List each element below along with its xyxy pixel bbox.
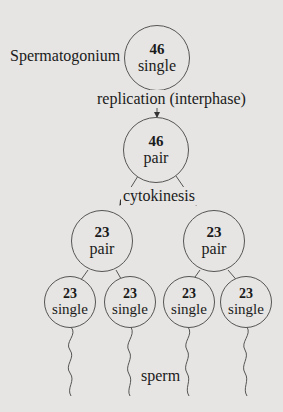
- cell-sperm-4: 23 single: [220, 276, 272, 328]
- ploidy-label: single: [52, 301, 88, 318]
- replication-label: replication (interphase): [95, 90, 248, 108]
- spermatogonium-label: Spermatogonium: [10, 47, 120, 65]
- sperm-tail-1: [68, 327, 73, 396]
- chromosome-count: 23: [63, 286, 77, 301]
- chromosome-count: 23: [207, 224, 222, 241]
- ploidy-label: single: [112, 301, 148, 318]
- ploidy-label: pair: [144, 149, 169, 167]
- sperm-tail-3: [186, 327, 190, 396]
- cell-sperm-2: 23 single: [104, 276, 156, 328]
- ploidy-label: pair: [202, 240, 227, 258]
- sperm-label: sperm: [141, 367, 180, 385]
- chromosome-count: 23: [95, 224, 110, 241]
- chromosome-count: 46: [150, 41, 165, 58]
- chromosome-count: 23: [239, 286, 253, 301]
- ploidy-label: pair: [90, 240, 115, 258]
- sperm-tail-2: [128, 327, 133, 396]
- cell-primary: 46 pair: [123, 117, 189, 183]
- cell-sperm-1: 23 single: [44, 276, 96, 328]
- chromosome-count: 23: [123, 286, 137, 301]
- cell-secondary-left: 23 pair: [71, 210, 133, 272]
- chromosome-count: 46: [149, 133, 164, 150]
- cell-spermatogonium: 46 single: [124, 25, 190, 91]
- cell-secondary-right: 23 pair: [183, 210, 245, 272]
- cell-sperm-3: 23 single: [163, 276, 215, 328]
- spermatogenesis-diagram: Spermatogonium 46 single replication (in…: [0, 0, 283, 412]
- ploidy-label: single: [228, 301, 264, 318]
- cytokinesis-label: cytokinesis: [121, 187, 197, 205]
- sperm-tail-4: [244, 327, 249, 396]
- ploidy-label: single: [171, 301, 207, 318]
- chromosome-count: 23: [182, 286, 196, 301]
- ploidy-label: single: [138, 57, 176, 75]
